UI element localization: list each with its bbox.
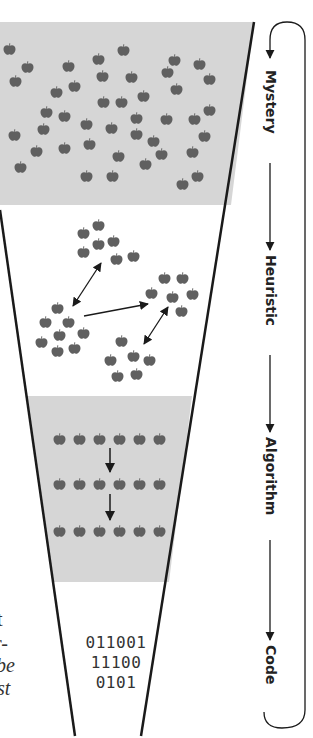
algorithm-band bbox=[27, 396, 192, 582]
code-line: 011001 bbox=[66, 633, 166, 653]
code-line: 0101 bbox=[66, 673, 166, 693]
stage-label-algorithm: Algorithm bbox=[263, 437, 279, 515]
stage-label-heuristic: Heuristic bbox=[263, 255, 279, 326]
code-line: 11100 bbox=[66, 653, 166, 673]
binary-code: 011001 11100 0101 bbox=[66, 633, 166, 693]
heuristic-clusters bbox=[36, 219, 199, 382]
text-fragment: st bbox=[0, 677, 10, 700]
text-fragment: t bbox=[0, 608, 3, 631]
text-fragment: be bbox=[0, 654, 15, 677]
text-fragment: r- bbox=[0, 632, 8, 655]
stage-label-mystery: Mystery bbox=[263, 70, 279, 134]
funnel-diagram: Mystery Heuristic Algorithm Code 011001 … bbox=[0, 0, 313, 738]
stage-label-code: Code bbox=[263, 645, 279, 684]
